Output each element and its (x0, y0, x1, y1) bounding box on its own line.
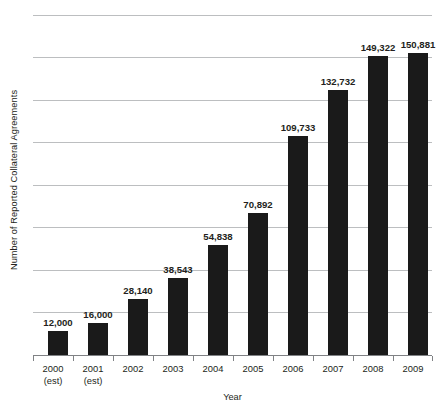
y-axis-title-text: Number of Reported Collateral Agreements (9, 90, 19, 270)
x-axis-label-2001-note: (est) (63, 375, 123, 387)
x-axis-label-2008-year: 2008 (363, 363, 384, 374)
bar-value-2006: 109,733 (268, 122, 328, 133)
axis-tick-4 (193, 356, 194, 361)
x-axis-label-2005-year: 2005 (243, 363, 264, 374)
bar-value-2001: 16,000 (68, 309, 128, 320)
bar-value-2004: 54,838 (188, 231, 248, 242)
x-axis-label-2001-year: 2001 (83, 363, 104, 374)
bar-2004 (208, 245, 228, 355)
bar-2001 (88, 323, 108, 355)
axis-tick-10 (432, 356, 433, 361)
bar-2000 (48, 331, 68, 355)
plot-area: 12,000 16,000 28,140 38,543 54,838 70,89… (33, 15, 432, 355)
x-axis-label-2002-year: 2002 (123, 363, 144, 374)
bar-2002 (128, 299, 148, 355)
bar-2003 (168, 278, 188, 355)
x-axis-label-2007-year: 2007 (323, 363, 344, 374)
gridline-1 (33, 15, 432, 16)
bar-value-2002: 28,140 (108, 285, 168, 296)
bar-2008 (368, 56, 388, 355)
bar-value-2003: 38,543 (148, 264, 208, 275)
axis-tick-3 (153, 356, 154, 361)
axis-tick-9 (393, 356, 394, 361)
bar-2007 (328, 90, 348, 356)
bar-2009 (408, 53, 428, 355)
axis-tick-7 (313, 356, 314, 361)
y-axis-title: Number of Reported Collateral Agreements (0, 0, 28, 360)
x-axis-label-2000-year: 2000 (43, 363, 64, 374)
axis-tick-0 (33, 356, 34, 361)
bar-2006 (288, 136, 308, 356)
bar-2005 (248, 213, 268, 355)
x-axis-label-2006-year: 2006 (283, 363, 304, 374)
x-axis-label-2004-year: 2004 (203, 363, 224, 374)
bar-value-2005: 70,892 (228, 199, 288, 210)
bar-chart-figure: Number of Reported Collateral Agreements… (0, 0, 437, 415)
bar-value-2009: 150,881 (388, 39, 437, 50)
x-axis-label-2009-year: 2009 (403, 363, 424, 374)
x-axis-label-2003-year: 2003 (163, 363, 184, 374)
axis-tick-8 (353, 356, 354, 361)
axis-tick-5 (233, 356, 234, 361)
axis-tick-6 (273, 356, 274, 361)
axis-tick-2 (113, 356, 114, 361)
axis-tick-1 (73, 356, 74, 361)
x-axis-label-2009: 2009 (383, 363, 437, 375)
x-axis-title: Year (33, 392, 432, 402)
bar-value-2007: 132,732 (308, 76, 368, 87)
